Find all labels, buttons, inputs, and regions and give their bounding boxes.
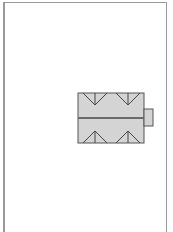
roof-annex — [144, 109, 153, 126]
roof-plan-drawing — [0, 0, 173, 232]
